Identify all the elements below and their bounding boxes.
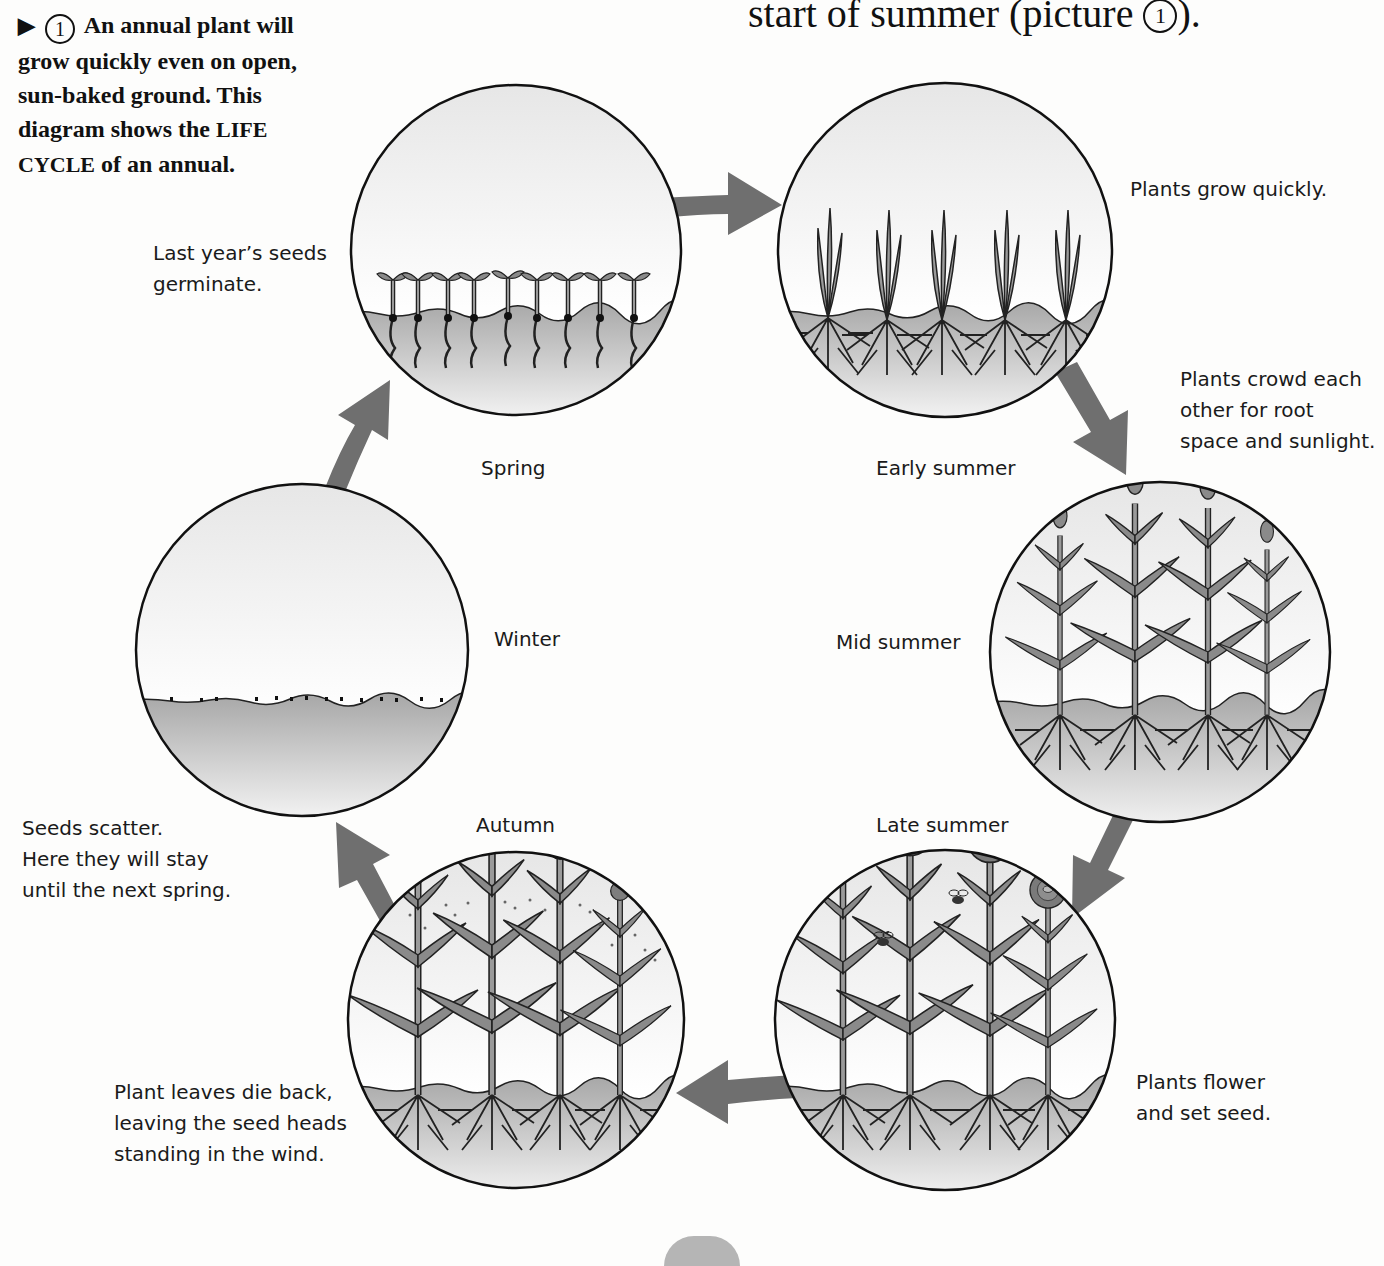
- caption-line: Plants flower: [1136, 1067, 1271, 1098]
- stage-spring-illustration: [340, 80, 700, 420]
- stage-winter-illustration: [130, 480, 480, 820]
- caption-line: other for root: [1180, 395, 1375, 426]
- caption-line: Plants crowd each: [1180, 364, 1375, 395]
- arrow-winter-to-spring-icon: [325, 380, 390, 492]
- caption-late-summer: Plants flower and set seed.: [1136, 1067, 1271, 1129]
- arrow-late-summer-to-autumn-icon: [676, 1060, 797, 1124]
- caption-line: and set seed.: [1136, 1098, 1271, 1129]
- caption-line: standing in the wind.: [114, 1139, 347, 1170]
- caption-line: Here they will stay: [22, 844, 231, 875]
- caption-line: until the next spring.: [22, 875, 231, 906]
- caption-line: germinate.: [153, 269, 327, 300]
- stage-label-autumn: Autumn: [476, 810, 555, 841]
- stage-label-winter: Winter: [494, 624, 560, 655]
- caption-autumn: Plant leaves die back, leaving the seed …: [114, 1077, 347, 1170]
- caption-winter: Seeds scatter. Here they will stay until…: [22, 813, 231, 906]
- caption-line: Plants grow quickly.: [1130, 174, 1327, 205]
- caption-line: Last year’s seeds: [153, 238, 327, 269]
- caption-line: leaving the seed heads: [114, 1108, 347, 1139]
- arrow-mid-to-late-summer-icon: [1072, 805, 1138, 918]
- caption-line: Plant leaves die back,: [114, 1077, 347, 1108]
- caption-line: space and sunlight.: [1180, 426, 1375, 457]
- stage-label-mid-summer: Mid summer: [836, 627, 960, 658]
- stage-label-late-summer: Late summer: [876, 810, 1009, 841]
- stage-label-spring: Spring: [481, 453, 546, 484]
- stage-mid-summer-illustration: [985, 467, 1345, 830]
- caption-mid-summer: Plants crowd each other for root space a…: [1180, 364, 1375, 457]
- stage-autumn-illustration: [340, 821, 700, 1200]
- arrow-early-to-mid-summer-icon: [1055, 362, 1128, 475]
- caption-early-summer: Plants grow quickly.: [1130, 174, 1327, 205]
- caption-line: Seeds scatter.: [22, 813, 231, 844]
- stage-label-early-summer: Early summer: [876, 453, 1015, 484]
- caption-spring: Last year’s seeds germinate.: [153, 238, 327, 300]
